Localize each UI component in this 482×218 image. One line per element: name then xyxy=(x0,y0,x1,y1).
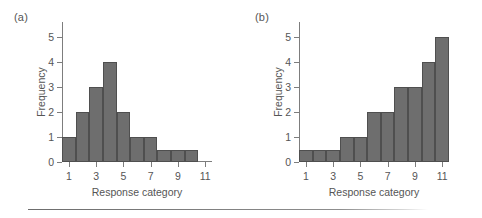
bar xyxy=(144,137,158,162)
bar xyxy=(299,150,313,163)
bar xyxy=(313,150,327,163)
bar xyxy=(117,112,131,162)
panel-b-y-tick-label: 5 xyxy=(285,31,291,43)
panel-b-y-tick-label: 0 xyxy=(285,156,291,168)
panel-a-x-tick xyxy=(205,162,206,167)
panel-a-y-tick-label: 2 xyxy=(48,106,54,118)
bar xyxy=(354,137,368,162)
panel-b-x-tick xyxy=(388,162,389,167)
panel-a-x-tick-label: 1 xyxy=(66,170,72,182)
panel-a-y-tick xyxy=(57,162,62,163)
bar xyxy=(89,87,103,162)
panel-a-x-tick-label: 3 xyxy=(93,170,99,182)
panel-b-y-tick-label: 4 xyxy=(285,56,291,68)
panel-a-x-tick xyxy=(123,162,124,167)
panel-a: (a) 012345 Frequency Response category 1… xyxy=(0,0,241,218)
bar xyxy=(171,150,185,163)
panel-b-y-tick-label: 2 xyxy=(285,106,291,118)
panel-a-bars xyxy=(62,22,212,162)
panel-a-x-tick-label: 5 xyxy=(120,170,126,182)
panel-b-x-tick xyxy=(360,162,361,167)
panel-a-x-axis-title: Response category xyxy=(92,186,182,198)
bar xyxy=(103,62,117,162)
panel-b-y-tick xyxy=(294,162,299,163)
panel-b-x-tick xyxy=(306,162,307,167)
panel-a-y-tick-label: 0 xyxy=(48,156,54,168)
panel-b-label: (b) xyxy=(255,11,269,23)
footer-rule xyxy=(28,209,428,210)
panel-a-x-tick xyxy=(151,162,152,167)
panel-b-x-tick-label: 5 xyxy=(357,170,363,182)
panel-a-x-tick xyxy=(178,162,179,167)
panel-b-y-tick-label: 3 xyxy=(285,81,291,93)
panel-a-y-tick-label: 5 xyxy=(48,31,54,43)
panel-a-y-tick-label: 3 xyxy=(48,81,54,93)
panel-a-y-tick-label: 4 xyxy=(48,56,54,68)
panel-a-label: (a) xyxy=(14,11,28,23)
bar xyxy=(185,150,199,163)
panel-b-x-tick-label: 3 xyxy=(330,170,336,182)
panel-b-y-tick-label: 1 xyxy=(285,131,291,143)
panel-b-plot-area: 012345 Frequency Response category 13579… xyxy=(299,22,449,162)
panel-b-bars xyxy=(299,22,449,162)
panel-b-x-tick xyxy=(415,162,416,167)
panel-b: (b) 012345 Frequency Response category 1… xyxy=(241,0,482,218)
bar xyxy=(422,62,436,162)
panel-b-y-axis-title: Frequency xyxy=(272,67,284,117)
panel-a-x-tick-label: 11 xyxy=(200,170,211,182)
panel-a-y-tick-label: 1 xyxy=(48,131,54,143)
bar xyxy=(435,37,449,162)
panel-b-x-tick xyxy=(442,162,443,167)
panel-a-x-tick-label: 7 xyxy=(148,170,154,182)
panel-b-x-tick-label: 7 xyxy=(385,170,391,182)
figure: (a) 012345 Frequency Response category 1… xyxy=(0,0,482,218)
panel-b-x-tick-label: 9 xyxy=(412,170,418,182)
bar xyxy=(326,150,340,163)
bar xyxy=(157,150,171,163)
bar xyxy=(62,137,76,162)
panel-b-x-tick-label: 11 xyxy=(437,170,448,182)
bar xyxy=(367,112,381,162)
panel-a-plot-area: 012345 Frequency Response category 13579… xyxy=(62,22,212,162)
panel-a-y-axis-title: Frequency xyxy=(35,67,47,117)
panel-b-x-tick-label: 1 xyxy=(303,170,309,182)
panel-a-x-tick xyxy=(96,162,97,167)
panel-b-x-tick xyxy=(333,162,334,167)
bar xyxy=(408,87,422,162)
panel-a-x-tick xyxy=(69,162,70,167)
bar xyxy=(381,112,395,162)
bar xyxy=(394,87,408,162)
panel-a-x-tick-label: 9 xyxy=(175,170,181,182)
bar xyxy=(76,112,90,162)
panel-b-x-axis-title: Response category xyxy=(329,186,419,198)
bar xyxy=(340,137,354,162)
bar xyxy=(130,137,144,162)
